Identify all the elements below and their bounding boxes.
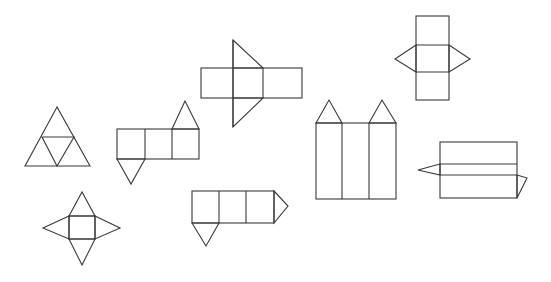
net-prism-d [316,100,396,199]
net-tetrahedron [25,107,90,166]
nets-diagram: Nets of geometric solids [0,0,551,282]
net-prism-e [395,16,470,100]
net-square-pyramid [43,192,120,265]
net-prism-f [418,142,527,198]
net-prism-a [117,101,199,184]
net-prism-b [201,40,302,127]
net-prism-c [192,191,288,246]
